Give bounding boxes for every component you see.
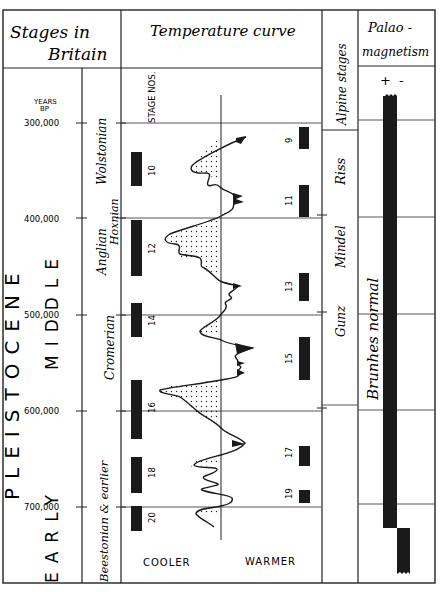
- brunhes-normal-bar: [383, 94, 397, 528]
- year-tick-600k: 600,000: [24, 406, 59, 416]
- stage-number-14: 14: [147, 315, 157, 326]
- stage-number-20: 20: [147, 512, 157, 523]
- alpine-mindel: Mindel: [334, 225, 348, 269]
- stage-number-16: 16: [147, 402, 157, 413]
- cold-stage-bars: [131, 152, 142, 531]
- warm-peak-shading: [232, 136, 254, 447]
- stage-cromerian: Cromerian: [103, 315, 117, 380]
- stage-number-11: 11: [284, 195, 294, 206]
- alpine-riss: Riss: [333, 157, 348, 186]
- stage-number-12: 12: [147, 243, 157, 254]
- subdivision-middle: MIDDLE: [42, 250, 62, 370]
- stage-beestonian: Beestonian & earlier: [97, 459, 111, 583]
- polarity-plus: +: [380, 73, 391, 88]
- brunhes-normal-label: Brunhes normal: [364, 277, 382, 401]
- cold-phase-shading: [159, 136, 221, 516]
- year-tick-300k: 300,000: [24, 118, 59, 128]
- stage-number-9: 9: [284, 138, 294, 143]
- epoch-pleistocene: PLEISTOCENE: [0, 264, 24, 500]
- stage-number-10: 10: [147, 165, 157, 176]
- stage-number-15: 15: [284, 353, 294, 364]
- stage-hoxnian: Hoxnian: [108, 198, 121, 246]
- stage-number-19: 19: [284, 488, 294, 499]
- axis-warmer-label: WARMER: [245, 556, 296, 567]
- stage-wolstonian: Wolstonian: [95, 118, 109, 185]
- stage-number-17: 17: [284, 447, 294, 458]
- stage-nos-label: STAGE NOS.: [147, 72, 157, 123]
- stage-anglian: Anglian: [95, 228, 109, 276]
- stage-number-18: 18: [147, 467, 157, 478]
- bp-label: BP: [40, 105, 49, 113]
- header-stages-line1: Stages in: [10, 22, 90, 42]
- header-alpine-stages: Alpine stages: [335, 43, 349, 126]
- header-palaeo-line1: Palao -: [367, 20, 412, 35]
- alpine-gunz: Gunz: [334, 305, 348, 337]
- axis-cooler-label: COOLER: [143, 557, 191, 568]
- polarity-minus: -: [399, 73, 404, 88]
- stage-number-13: 13: [284, 281, 294, 292]
- header-temperature-curve: Temperature curve: [150, 22, 296, 40]
- header-palaeo-line2: magnetism: [362, 45, 429, 59]
- pleistocene-stratigraphy-diagram: Stages in Britain Temperature curve Pala…: [0, 0, 442, 592]
- matuyama-reversed-bar: [397, 528, 410, 574]
- year-tick-400k: 400,000: [24, 214, 59, 224]
- header-stages-line2: Britain: [47, 44, 107, 64]
- subdivision-early: EARLY: [42, 486, 62, 583]
